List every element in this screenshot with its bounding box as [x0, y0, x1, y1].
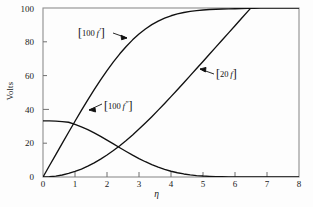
x-axis-ticks	[75, 172, 267, 177]
arrowhead-100-fdprime	[89, 108, 96, 112]
arrowhead-20-f	[200, 67, 206, 72]
curve-20-f	[43, 0, 299, 177]
y-axis-ticks	[43, 42, 49, 143]
arrowhead-100-fprime	[121, 35, 127, 40]
plot-canvas	[0, 0, 313, 207]
annotation-leaders	[89, 33, 214, 112]
curve-100-f-prime	[43, 8, 299, 177]
plot-frame	[43, 8, 299, 177]
blasius-boundary-layer-chart: Volts 100 80 60 40 20 0 0 1 2 3 4 5 6 7 …	[0, 0, 313, 207]
